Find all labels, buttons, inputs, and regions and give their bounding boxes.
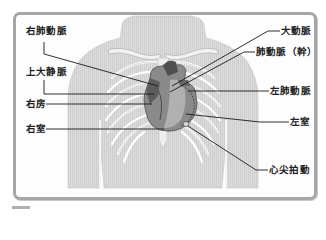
label-aorta: 大動脈 (281, 25, 312, 36)
caption-marker (12, 206, 30, 209)
label-right-ventricle: 右室 (26, 123, 46, 134)
label-left-ventricle: 左室 (290, 116, 310, 127)
label-left-pulmonary-artery: 左肺動脈 (270, 85, 311, 96)
label-pulmonary-trunk: 肺動脈（幹） (256, 46, 317, 57)
label-right-pulmonary-artery: 右肺動脈 (26, 25, 67, 36)
label-apex-beat: 心尖拍動 (269, 164, 310, 175)
label-right-atrium: 右房 (26, 98, 46, 109)
label-superior-vena-cava: 上大静脈 (26, 66, 67, 77)
